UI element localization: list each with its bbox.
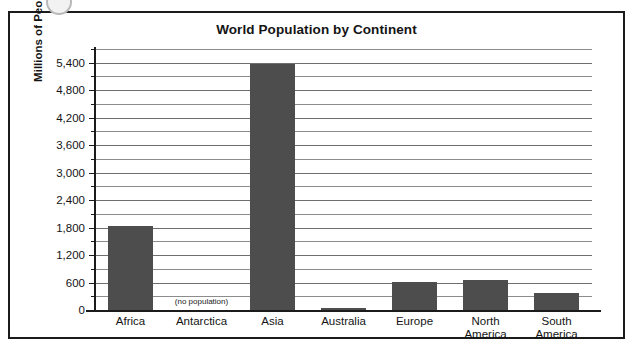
y-minor-tick-mark bbox=[91, 241, 96, 242]
gridline bbox=[95, 283, 592, 284]
gridline bbox=[95, 173, 592, 174]
y-tick-mark bbox=[89, 310, 96, 311]
gridline bbox=[95, 63, 592, 64]
x-tick-label: Europe bbox=[396, 315, 433, 328]
gridline bbox=[95, 104, 592, 105]
gridline bbox=[95, 296, 592, 297]
y-minor-tick-mark bbox=[91, 296, 96, 297]
y-tick-mark bbox=[89, 145, 96, 146]
x-tick-label: Australia bbox=[321, 315, 366, 328]
gridline bbox=[95, 228, 592, 229]
y-minor-tick-mark bbox=[91, 76, 96, 77]
y-minor-tick-mark bbox=[91, 186, 96, 187]
y-tick-label: 5,400 bbox=[56, 57, 85, 69]
gridline bbox=[95, 145, 592, 146]
y-tick-mark bbox=[89, 200, 96, 201]
gridline bbox=[95, 214, 592, 215]
y-tick-label: 3,000 bbox=[56, 167, 85, 179]
x-tick-label: Africa bbox=[116, 315, 145, 328]
gridline bbox=[95, 186, 592, 187]
x-tick-label-line: Australia bbox=[321, 315, 366, 328]
y-minor-tick-mark bbox=[91, 104, 96, 105]
x-tick-label-line: North bbox=[464, 315, 506, 328]
bar bbox=[463, 280, 507, 310]
y-minor-tick-mark bbox=[91, 269, 96, 270]
y-tick-mark bbox=[89, 90, 96, 91]
y-tick-mark bbox=[89, 283, 96, 284]
gridline bbox=[95, 159, 592, 160]
gridline bbox=[95, 269, 592, 270]
y-minor-tick-mark bbox=[91, 49, 96, 50]
x-tick-label-line: Europe bbox=[396, 315, 433, 328]
plot-area: 06001,2001,8002,4003,0003,6004,2004,8005… bbox=[95, 49, 592, 310]
bar bbox=[250, 64, 294, 310]
gridline bbox=[95, 200, 592, 201]
bar bbox=[392, 282, 436, 310]
gridline bbox=[95, 118, 592, 119]
gridline bbox=[95, 76, 592, 77]
x-tick-label: Asia bbox=[261, 315, 283, 328]
y-tick-mark bbox=[89, 63, 96, 64]
y-minor-tick-mark bbox=[91, 131, 96, 132]
y-tick-label: 2,400 bbox=[56, 194, 85, 206]
y-tick-label: 1,200 bbox=[56, 249, 85, 261]
bar bbox=[321, 308, 365, 310]
y-tick-label: 4,800 bbox=[56, 84, 85, 96]
gridline bbox=[95, 255, 592, 256]
y-tick-label: 0 bbox=[79, 304, 85, 316]
no-population-annotation: (no population) bbox=[175, 297, 228, 306]
y-tick-mark bbox=[89, 228, 96, 229]
x-tick-label: SouthAmerica bbox=[535, 315, 577, 340]
chart-figure-frame: World Population by Continent Millions o… bbox=[8, 11, 625, 339]
y-tick-label: 4,200 bbox=[56, 112, 85, 124]
bar bbox=[534, 293, 578, 310]
y-tick-label: 3,600 bbox=[56, 139, 85, 151]
y-tick-label: 600 bbox=[66, 277, 85, 289]
x-tick-label-line: South bbox=[535, 315, 577, 328]
y-tick-mark bbox=[89, 118, 96, 119]
y-axis-title: Millions of People bbox=[32, 0, 44, 113]
y-tick-mark bbox=[89, 255, 96, 256]
gridline bbox=[95, 90, 592, 91]
gridline bbox=[95, 241, 592, 242]
y-axis-line bbox=[94, 47, 96, 312]
y-tick-mark bbox=[89, 173, 96, 174]
x-tick-label-line: Asia bbox=[261, 315, 283, 328]
x-tick-label-line: Africa bbox=[116, 315, 145, 328]
x-tick-label-line: Antarctica bbox=[176, 315, 227, 328]
x-tick-label-line: America bbox=[464, 328, 506, 341]
x-tick-label: Antarctica bbox=[176, 315, 227, 328]
chart-title: World Population by Continent bbox=[10, 22, 623, 37]
x-axis-line bbox=[86, 310, 601, 312]
y-tick-label: 1,800 bbox=[56, 222, 85, 234]
gridline bbox=[95, 131, 592, 132]
y-minor-tick-mark bbox=[91, 159, 96, 160]
y-minor-tick-mark bbox=[91, 214, 96, 215]
bar bbox=[108, 226, 152, 310]
gridline bbox=[95, 49, 592, 50]
x-tick-label-line: America bbox=[535, 328, 577, 341]
x-tick-label: NorthAmerica bbox=[464, 315, 506, 340]
